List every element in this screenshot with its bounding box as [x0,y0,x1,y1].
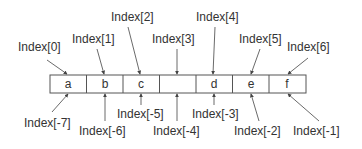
cell-value-4: d [211,77,218,91]
arrow-icon [288,94,319,121]
cell-value-5: e [248,77,255,91]
label-index-2: Index[2] [111,10,154,24]
label-index-neg7: Index[-7] [24,116,71,130]
array-box: a b c d e f [50,75,306,93]
array-outline [50,75,306,93]
arrow-icon [47,60,67,74]
positive-indices: Index[0] Index[1] Index[2] Index[3] Inde… [18,10,330,74]
label-index-4: Index[4] [196,10,239,24]
label-index-5: Index[5] [239,32,282,46]
label-index-neg1: Index[-1] [293,124,340,138]
arrow-icon [52,94,68,112]
label-index-1: Index[1] [72,32,115,46]
arrow-icon [97,49,104,74]
label-index-neg2: Index[-2] [234,124,281,138]
label-index-0: Index[0] [18,40,61,54]
arrow-icon [213,27,215,74]
cell-value-1: b [102,77,109,91]
negative-indices: Index[-7] Index[-6] Index[-5] Index[-4] … [24,94,340,138]
label-index-neg5: Index[-5] [117,107,164,121]
cell-value-2: c [138,77,144,91]
label-index-neg4: Index[-4] [153,124,200,138]
label-index-3: Index[3] [152,32,195,46]
arrow-icon [251,49,260,74]
cell-value-0: a [65,77,72,91]
index-diagram: a b c d e f Index[0] Index[1] Index[2] I… [0,0,362,149]
label-index-6: Index[6] [287,40,330,54]
label-index-neg3: Index[-3] [192,107,239,121]
label-index-neg6: Index[-6] [79,124,126,138]
arrow-icon [251,94,259,121]
arrow-icon [288,58,308,74]
arrow-icon [128,27,140,74]
